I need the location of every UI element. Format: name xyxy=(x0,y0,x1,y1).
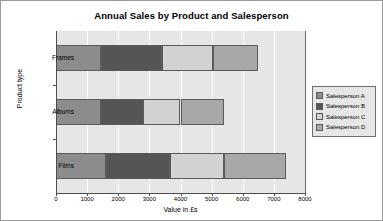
y-tick-label: Albums xyxy=(14,108,74,115)
bar-segment xyxy=(143,99,180,125)
bar-segment xyxy=(162,45,213,71)
bar-segment xyxy=(181,99,225,125)
legend-label: Salesperson A xyxy=(326,93,365,99)
legend-swatch-icon xyxy=(316,113,323,120)
legend-swatch-icon xyxy=(316,103,323,110)
legend: Salesperson ASalesperson BSalesperson CS… xyxy=(312,86,376,137)
bars-layer xyxy=(56,31,305,193)
y-axis-title: Product type xyxy=(16,49,23,129)
x-axis-title: Value in £s xyxy=(56,206,305,213)
bar-row xyxy=(56,99,305,125)
legend-swatch-icon xyxy=(316,124,323,131)
y-tick-mark xyxy=(53,85,56,86)
bar-segment xyxy=(213,45,258,71)
bar-segment xyxy=(170,153,224,179)
y-tick-label: Frames xyxy=(14,54,74,61)
x-tick-label: 0 xyxy=(41,196,71,202)
legend-swatch-icon xyxy=(316,92,323,99)
gridline-8000 xyxy=(305,31,306,193)
bar-segment xyxy=(101,45,162,71)
x-tick-label: 6000 xyxy=(228,196,258,202)
plot-area xyxy=(56,31,305,193)
bar-row xyxy=(56,153,305,179)
x-tick-label: 3000 xyxy=(134,196,164,202)
legend-label: Salesperson D xyxy=(326,124,365,130)
x-tick-label: 5000 xyxy=(197,196,227,202)
y-tick-mark xyxy=(53,139,56,140)
legend-label: Salesperson B xyxy=(326,103,365,109)
legend-label: Salesperson C xyxy=(326,114,365,120)
legend-item[interactable]: Salesperson B xyxy=(316,101,372,111)
bar-row xyxy=(56,45,305,71)
x-tick-label: 4000 xyxy=(166,196,196,202)
y-tick-label: Films xyxy=(14,162,74,169)
x-tick-label: 7000 xyxy=(259,196,289,202)
legend-item[interactable]: Salesperson A xyxy=(316,91,372,101)
chart-title: Annual Sales by Product and Salesperson xyxy=(1,10,382,21)
x-tick-label: 2000 xyxy=(103,196,133,202)
bar-segment xyxy=(101,99,143,125)
legend-item[interactable]: Salesperson C xyxy=(316,112,372,122)
bar-segment xyxy=(224,153,286,179)
x-tick-label: 8000 xyxy=(290,196,320,202)
legend-item[interactable]: Salesperson D xyxy=(316,122,372,132)
x-tick-label: 1000 xyxy=(72,196,102,202)
bar-segment xyxy=(106,153,170,179)
chart-figure: Annual Sales by Product and Salesperson … xyxy=(0,0,383,221)
